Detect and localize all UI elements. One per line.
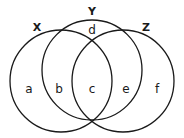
set-z-label: Z xyxy=(142,21,150,34)
region-f-label: f xyxy=(155,82,160,96)
region-c-label: c xyxy=(89,82,96,96)
region-e-label: e xyxy=(122,82,129,96)
venn-diagram: X Y Z a b c d e f xyxy=(0,0,184,138)
region-a-label: a xyxy=(25,82,32,96)
set-y-label: Y xyxy=(87,5,97,18)
set-x-label: X xyxy=(33,21,42,34)
region-d-label: d xyxy=(88,23,96,37)
region-b-label: b xyxy=(55,82,63,96)
